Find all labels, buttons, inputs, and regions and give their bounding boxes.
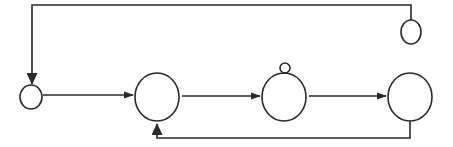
- node-top-right-small-circle: [401, 20, 421, 44]
- node-3-knob-circle: [280, 63, 290, 73]
- node-2-circle: [135, 73, 179, 121]
- node-3-circle: [262, 73, 306, 121]
- node-input-small-circle: [20, 85, 42, 109]
- feedback-edge-top: [32, 5, 411, 84]
- feedback-edge-bottom: [157, 121, 410, 138]
- node-4-circle: [388, 73, 432, 121]
- flow-diagram: [0, 0, 453, 147]
